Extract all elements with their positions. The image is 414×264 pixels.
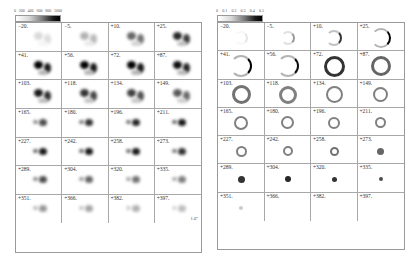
right-colorbar	[217, 15, 263, 22]
scale-bar-label: 1.0"	[191, 216, 198, 221]
emission-blob	[131, 41, 141, 46]
colorbar-tick-label: 0	[216, 8, 218, 13]
frame-epoch-label: +165.	[18, 109, 31, 116]
frame-epoch-label: −20.	[220, 23, 230, 30]
emission-ring	[375, 117, 386, 128]
emission-blob	[38, 41, 48, 46]
frame-epoch-label: +56.	[267, 51, 277, 58]
emission-blob	[178, 205, 186, 212]
frame-epoch-label: +320.	[313, 164, 326, 171]
emission-blob	[126, 149, 131, 153]
emission-blob	[172, 149, 177, 153]
frame-epoch-label: +351.	[220, 193, 233, 200]
frame-cell: +103.	[218, 80, 265, 108]
colorbar-tick-label: 0	[14, 8, 16, 13]
frame-epoch-label: +382.	[313, 193, 326, 200]
frame-epoch-label: +258.	[111, 138, 124, 145]
frame-cell: +351.	[218, 193, 265, 221]
frame-cell: +149.	[358, 80, 405, 108]
frame-epoch-label: +149.	[360, 80, 373, 87]
frame-epoch-label: +149.	[157, 80, 170, 87]
frame-epoch-label: +118.	[267, 80, 280, 87]
frame-epoch-label: +242.	[64, 138, 77, 145]
emission-blob	[33, 177, 38, 181]
frame-epoch-label: +273.	[157, 138, 170, 145]
emission-blob	[33, 206, 38, 210]
emission-ring	[283, 146, 293, 156]
emission-blob	[79, 120, 84, 124]
emission-ring	[234, 116, 248, 130]
frame-cell: +397.1.0"	[155, 195, 201, 224]
frame-cell: +25.	[155, 23, 201, 52]
emission-blob	[39, 119, 47, 126]
emission-ring	[234, 31, 248, 45]
emission-blob	[173, 61, 182, 69]
frame-epoch-label: +72.	[313, 51, 323, 58]
emission-blob	[172, 177, 177, 181]
emission-ring	[236, 146, 247, 157]
emission-blob	[132, 205, 140, 212]
emission-blob	[178, 176, 186, 183]
frame-cell: +258.	[109, 138, 155, 167]
emission-blob	[85, 148, 93, 155]
frame-epoch-label: +351.	[18, 195, 31, 202]
frame-cell: +289.	[16, 166, 62, 195]
frame-epoch-label: +25.	[157, 23, 167, 30]
frame-epoch-label: +211.	[157, 109, 170, 116]
emission-blob	[131, 70, 141, 75]
colorbar-tick-label: 600	[36, 8, 42, 13]
colorbar-tick-label: 0.4	[250, 8, 255, 13]
colorbar-tick-label: 400	[28, 8, 34, 13]
emission-blob	[173, 89, 182, 97]
emission-blob	[127, 89, 136, 97]
frame-cell: +10.	[109, 23, 155, 52]
emission-blob	[132, 148, 140, 155]
colorbar-tick-label: 0.3	[241, 8, 246, 13]
frame-epoch-label: +397.	[157, 195, 170, 202]
emission-blob	[79, 206, 84, 210]
emission-blob	[85, 176, 93, 183]
frame-cell: −20.	[16, 23, 62, 52]
frame-cell: +320.	[311, 164, 358, 192]
frame-epoch-label: +227.	[220, 136, 233, 143]
frame-cell: +304.	[62, 166, 108, 195]
emission-ring	[328, 117, 340, 129]
frame-cell: +10.	[311, 23, 358, 51]
frame-cell: +180.	[62, 109, 108, 138]
emission-blob	[79, 177, 84, 181]
emission-ring	[230, 55, 252, 77]
frame-cell: +118.	[62, 80, 108, 109]
frame-cell: +242.	[265, 136, 312, 164]
frame-epoch-label: +180.	[64, 109, 77, 116]
colorbar-tick-label: 0.1	[222, 8, 227, 13]
emission-blob	[34, 89, 43, 97]
left-frame-grid: −20.−5.+10.+25.+41.+56.+72.+87.+103.+118…	[15, 22, 202, 253]
emission-dot	[285, 176, 291, 182]
emission-blob	[39, 176, 47, 183]
emission-blob	[177, 98, 187, 103]
frame-epoch-label: +103.	[18, 80, 31, 87]
emission-blob	[84, 41, 94, 46]
emission-blob	[84, 70, 94, 75]
emission-dot	[238, 176, 245, 183]
emission-ring	[277, 55, 299, 77]
frame-cell: +258.	[311, 136, 358, 164]
frame-cell: +180.	[265, 108, 312, 136]
frame-cell: +103.	[16, 80, 62, 109]
frame-cell: +366.	[62, 195, 108, 224]
emission-blob	[131, 98, 141, 103]
emission-blob	[85, 119, 93, 126]
emission-blob	[172, 120, 177, 124]
frame-epoch-label: +320.	[111, 166, 124, 173]
frame-epoch-label: +165.	[220, 108, 233, 115]
left-colorbar	[15, 15, 61, 22]
frame-epoch-label: +289.	[220, 164, 233, 171]
emission-blob	[34, 32, 43, 40]
frame-epoch-label: +304.	[267, 164, 280, 171]
frame-cell: +320.	[109, 166, 155, 195]
left-figure-panel: 02004006008001000 −20.−5.+10.+25.+41.+56…	[0, 0, 207, 264]
emission-blob	[178, 148, 186, 155]
frame-cell: +25.	[358, 23, 405, 51]
frame-cell: +211.	[155, 109, 201, 138]
emission-blob	[172, 206, 177, 210]
